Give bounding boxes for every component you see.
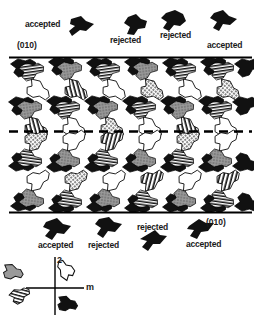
top-label-rejected-1: rejected: [110, 36, 141, 45]
bottom-label-accepted-1: accepted: [38, 241, 73, 250]
symmetry-mirror-label: m: [86, 283, 94, 292]
top-annotation-shapes: [69, 10, 237, 36]
bottom-shape-accepted-1: [43, 218, 71, 240]
top-label-accepted-2: accepted: [207, 41, 242, 50]
bottom-shape-rejected-2: [140, 230, 167, 251]
symmetry-motif-top-left: [0, 262, 25, 283]
tessellation-lattice: [8, 55, 261, 216]
bottom-label-rejected-2: rejected: [137, 223, 168, 232]
symmetry-motif-bottom-right: [55, 294, 79, 315]
bottom-plane-index: (010): [206, 218, 226, 227]
bottom-shape-rejected-1: [95, 217, 122, 238]
top-shape-accepted-2: [210, 10, 237, 31]
top-shape-rejected-2: [161, 10, 186, 31]
top-shape-rejected-1: [124, 14, 147, 35]
symmetry-rotation-label: 2: [57, 256, 62, 265]
top-plane-index: (010): [17, 41, 37, 50]
top-label-rejected-2: rejected: [160, 31, 191, 40]
top-label-accepted-1: accepted: [25, 20, 60, 29]
bottom-label-accepted-3: accepted: [186, 240, 221, 249]
symmetry-key: [0, 257, 84, 315]
lattice-row: [10, 164, 261, 215]
top-shape-accepted-1: [69, 16, 94, 36]
bottom-label-rejected-1: rejected: [88, 241, 119, 250]
